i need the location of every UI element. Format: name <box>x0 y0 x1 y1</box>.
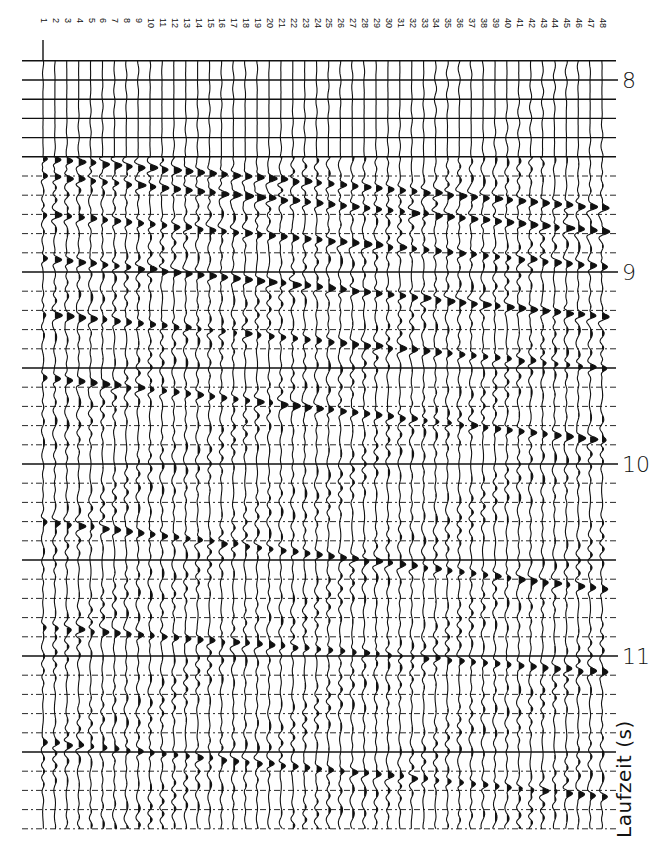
trace-label-26: 26 <box>335 18 347 40</box>
trace-label-32: 32 <box>407 18 419 40</box>
trace-label-10: 10 <box>145 18 157 40</box>
seismic-record-plot <box>0 0 655 853</box>
trace-label-13: 13 <box>181 18 193 40</box>
trace-label-6: 6 <box>97 18 109 40</box>
trace-label-31: 31 <box>395 18 407 40</box>
trace-label-45: 45 <box>561 18 573 40</box>
trace-label-3: 3 <box>62 18 74 40</box>
trace-label-39: 39 <box>490 18 502 40</box>
trace-label-4: 4 <box>74 18 86 40</box>
trace-label-15: 15 <box>205 18 217 40</box>
trace-label-7: 7 <box>109 18 121 40</box>
trace-label-16: 16 <box>216 18 228 40</box>
trace-label-44: 44 <box>549 18 561 40</box>
trace-label-37: 37 <box>466 18 478 40</box>
trace-label-46: 46 <box>573 18 585 40</box>
trace-label-17: 17 <box>228 18 240 40</box>
trace-label-20: 20 <box>264 18 276 40</box>
trace-label-24: 24 <box>312 18 324 40</box>
trace-label-40: 40 <box>502 18 514 40</box>
time-label-8: 8 <box>622 70 636 92</box>
trace-label-12: 12 <box>169 18 181 40</box>
trace-label-1: 1 <box>38 18 50 40</box>
trace-label-34: 34 <box>430 18 442 40</box>
trace-label-5: 5 <box>86 18 98 40</box>
trace-label-28: 28 <box>359 18 371 40</box>
trace-label-42: 42 <box>526 18 538 40</box>
trace-label-9: 9 <box>133 18 145 40</box>
y-axis-title: Laufzeit (s) <box>612 720 636 838</box>
trace-label-41: 41 <box>514 18 526 40</box>
trace-label-14: 14 <box>193 18 205 40</box>
trace-label-29: 29 <box>371 18 383 40</box>
trace-label-25: 25 <box>323 18 335 40</box>
trace-label-35: 35 <box>442 18 454 40</box>
trace-label-33: 33 <box>419 18 431 40</box>
trace-label-23: 23 <box>300 18 312 40</box>
seismogram-figure: 1234567891011121314151617181920212223242… <box>0 0 655 853</box>
trace-label-30: 30 <box>383 18 395 40</box>
trace-label-21: 21 <box>276 18 288 40</box>
trace-label-38: 38 <box>478 18 490 40</box>
trace-label-47: 47 <box>585 18 597 40</box>
trace-label-11: 11 <box>157 18 169 40</box>
time-label-10: 10 <box>622 454 650 476</box>
time-label-9: 9 <box>622 262 636 284</box>
trace-label-19: 19 <box>252 18 264 40</box>
trace-label-2: 2 <box>50 18 62 40</box>
trace-label-18: 18 <box>240 18 252 40</box>
trace-label-8: 8 <box>121 18 133 40</box>
trace-label-48: 48 <box>597 18 609 40</box>
trace-label-22: 22 <box>288 18 300 40</box>
trace-label-43: 43 <box>538 18 550 40</box>
time-label-11: 11 <box>622 646 650 668</box>
trace-label-36: 36 <box>454 18 466 40</box>
trace-label-27: 27 <box>347 18 359 40</box>
